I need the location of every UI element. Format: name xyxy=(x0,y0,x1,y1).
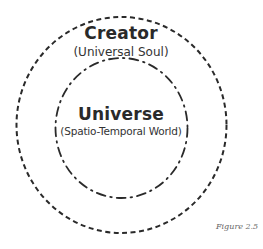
universe-label: Universe xyxy=(0,104,242,124)
creator-label: Creator xyxy=(0,23,242,43)
spatio-temporal-world-sublabel: (Spatio-Temporal World) xyxy=(0,125,242,137)
universal-soul-sublabel: (Universal Soul) xyxy=(0,45,242,59)
figure-caption: Figure 2.5 xyxy=(216,222,258,231)
